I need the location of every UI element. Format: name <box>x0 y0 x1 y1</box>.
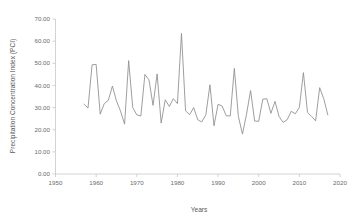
x-axis-tick-label: 2010 <box>292 179 306 186</box>
precipitation-concentration-index-line-chart: 0.0010.0020.0030.0040.0050.0060.0070.00 … <box>0 0 352 218</box>
y-axis-tick-label: 40.00 <box>35 82 51 89</box>
x-axis-tick-label: 1990 <box>211 179 225 186</box>
data-series-line <box>84 33 328 134</box>
y-axis-tick-label: 0.00 <box>38 170 51 177</box>
y-axis-tick-label: 70.00 <box>35 15 51 22</box>
y-axis-tick-group: 0.0010.0020.0030.0040.0050.0060.0070.00 <box>35 15 56 177</box>
x-axis-tick-group: 19501960197019801990200020102020 <box>49 174 348 186</box>
x-axis-tick-label: 2020 <box>333 179 347 186</box>
y-axis-tick-label: 20.00 <box>35 126 51 133</box>
chart-container: 0.0010.0020.0030.0040.0050.0060.0070.00 … <box>0 0 352 218</box>
x-axis-tick-label: 1980 <box>171 179 185 186</box>
y-axis-tick-label: 50.00 <box>35 59 51 66</box>
x-axis-title: Years <box>191 206 208 213</box>
x-axis-tick-label: 2000 <box>252 179 266 186</box>
x-axis-tick-label: 1970 <box>130 179 144 186</box>
x-axis-tick-label: 1950 <box>49 179 63 186</box>
y-axis-tick-label: 10.00 <box>35 148 51 155</box>
y-axis-tick-label: 30.00 <box>35 104 51 111</box>
y-axis-title: Precipitation Concentration Index (PCI) <box>9 39 17 153</box>
y-axis-tick-label: 60.00 <box>35 37 51 44</box>
x-axis-tick-label: 1960 <box>89 179 103 186</box>
